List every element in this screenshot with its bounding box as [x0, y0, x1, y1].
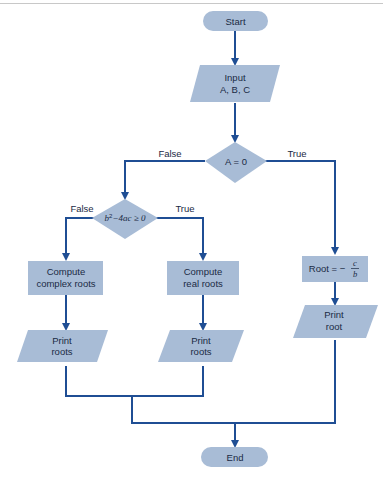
flowchart: Start Input A, B, C A = 0 False True b2−… — [0, 0, 391, 480]
node-print-root: Print root — [293, 305, 378, 338]
edge-a-false — [125, 161, 205, 197]
node-input-line1: Input — [224, 72, 245, 83]
node-compute-complex: Compute complex roots — [28, 261, 103, 295]
arrowhead-icon — [62, 253, 70, 261]
node-print-complex: Print roots — [17, 330, 108, 362]
arrowhead-icon — [199, 253, 207, 261]
node-compute-complex-line1: Compute — [47, 266, 86, 277]
arrowhead-icon — [231, 135, 239, 143]
node-print-real: Print roots — [158, 330, 244, 362]
node-decision-discriminant: b2−4ac ≥ 0 — [92, 199, 158, 239]
node-input-line2: A, B, C — [220, 84, 250, 95]
edge-label-a-true: True — [287, 148, 306, 159]
node-end: End — [201, 447, 268, 467]
node-end-label: End — [227, 452, 244, 463]
node-input: Input A, B, C — [190, 65, 280, 102]
edge-label-disc-false: False — [70, 203, 93, 214]
arrowhead-icon — [331, 298, 339, 306]
node-print-root-line1: Print — [324, 309, 344, 320]
node-root-linear-denominator: b — [353, 269, 357, 279]
node-start-label: Start — [225, 16, 245, 27]
node-compute-real-line1: Compute — [184, 266, 223, 277]
node-print-real-line2: roots — [190, 346, 211, 357]
node-root-linear: Root = − c b — [302, 256, 368, 282]
arrowhead-icon — [121, 192, 129, 200]
arrowhead-icon — [231, 58, 239, 66]
node-start: Start — [203, 11, 268, 31]
arrowhead-icon — [231, 440, 239, 448]
node-print-root-line2: root — [326, 321, 343, 332]
arrowhead-icon — [62, 323, 70, 331]
node-print-real-line1: Print — [191, 335, 211, 346]
node-compute-real: Compute real roots — [167, 261, 239, 295]
arrowhead-icon — [199, 323, 207, 331]
node-print-complex-line1: Print — [52, 335, 72, 346]
edge-a-true — [265, 161, 335, 252]
edge-label-a-false: False — [158, 148, 181, 159]
node-root-linear-numerator: c — [353, 258, 357, 268]
node-compute-real-line2: real roots — [183, 278, 223, 289]
edge-label-disc-true: True — [175, 203, 194, 214]
edge-merge-left — [66, 366, 203, 396]
arrowhead-icon — [331, 247, 339, 255]
node-decision-a-label: A = 0 — [225, 156, 247, 167]
node-compute-complex-line2: complex roots — [36, 278, 95, 289]
node-root-linear-prefix: Root = − — [309, 263, 346, 274]
node-decision-a: A = 0 — [205, 142, 267, 183]
node-print-complex-line2: roots — [51, 346, 72, 357]
edge-disc-false — [66, 218, 95, 258]
edge-disc-true — [155, 218, 203, 258]
